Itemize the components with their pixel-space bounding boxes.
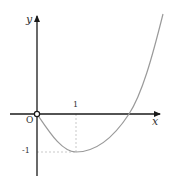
- tick-label-ym1: -1: [22, 147, 30, 155]
- tick-label-x1: 1: [73, 101, 78, 109]
- origin-open-point: [34, 111, 39, 116]
- plot-area: [0, 0, 170, 185]
- origin-label: O: [26, 116, 33, 125]
- y-axis-label: y: [26, 14, 32, 25]
- x-axis-label: x: [152, 116, 158, 127]
- function-curve: [37, 14, 163, 152]
